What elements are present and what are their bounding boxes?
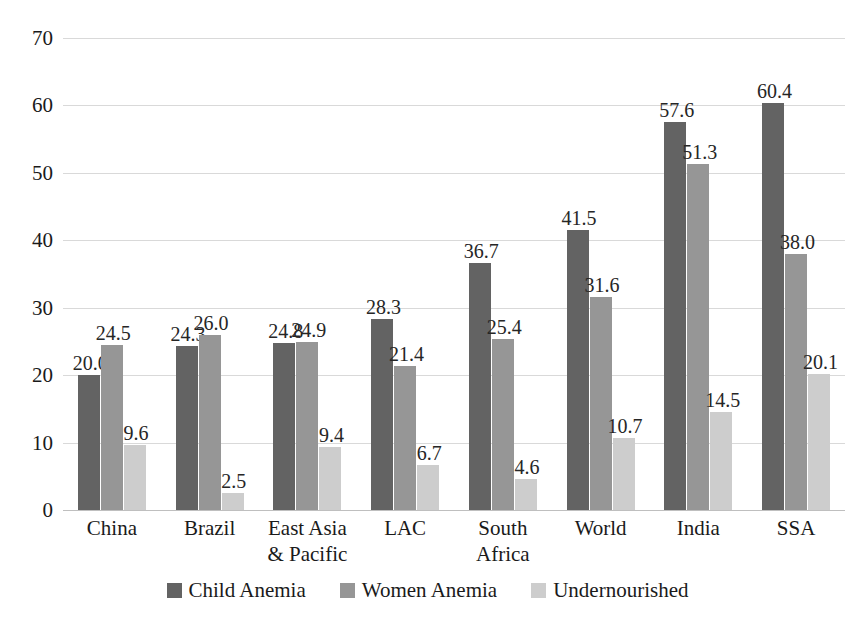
- bar-value-label: 60.4: [757, 81, 792, 102]
- y-axis-tick-label: 30: [32, 297, 53, 318]
- bar-value-label: 2.5: [221, 471, 246, 492]
- x-axis-category-label: World: [575, 516, 627, 542]
- chart-legend: Child AnemiaWomen AnemiaUndernourished: [0, 580, 855, 601]
- bar-value-label: 21.4: [389, 344, 424, 365]
- bar[interactable]: 20.0: [78, 375, 100, 510]
- bar[interactable]: 9.4: [319, 447, 341, 510]
- bar[interactable]: 25.4: [492, 339, 514, 510]
- y-axis-tick-label: 50: [32, 162, 53, 183]
- bar-value-label: 9.4: [319, 425, 344, 446]
- bar[interactable]: 31.6: [590, 297, 612, 510]
- bar-value-label: 10.7: [608, 416, 643, 437]
- legend-label: Child Anemia: [189, 580, 306, 601]
- bar-value-label: 14.5: [705, 390, 740, 411]
- legend-item[interactable]: Women Anemia: [340, 580, 497, 601]
- bar[interactable]: 24.5: [101, 345, 123, 510]
- bar-value-label: 6.7: [417, 443, 442, 464]
- x-axis-category-label: China: [87, 516, 137, 542]
- bar-group: 24.326.02.5: [176, 38, 244, 510]
- bar-group: 20.024.59.6: [78, 38, 146, 510]
- bar[interactable]: 60.4: [762, 103, 784, 510]
- x-axis-category-label: East Asia & Pacific: [267, 516, 347, 568]
- bar-value-label: 20.1: [803, 352, 838, 373]
- y-axis-tick-label: 20: [32, 365, 53, 386]
- bar-value-label: 31.6: [585, 275, 620, 296]
- plot-area: 20.024.59.624.326.02.524.824.99.428.321.…: [63, 38, 845, 510]
- bar[interactable]: 6.7: [417, 465, 439, 510]
- bar-value-label: 51.3: [682, 142, 717, 163]
- bar-value-label: 4.6: [514, 457, 539, 478]
- y-axis-tick-label: 10: [32, 432, 53, 453]
- x-axis-category-label: SSA: [777, 516, 816, 542]
- bar[interactable]: 24.8: [273, 343, 295, 510]
- bar[interactable]: 36.7: [469, 263, 491, 510]
- bar[interactable]: 24.9: [296, 342, 318, 510]
- y-axis-tick-label: 40: [32, 230, 53, 251]
- bar-value-label: 36.7: [464, 241, 499, 262]
- legend-item[interactable]: Undernourished: [531, 580, 688, 601]
- bar-group: 57.651.314.5: [664, 38, 732, 510]
- x-axis-category-label: LAC: [384, 516, 426, 542]
- bar-group: 41.531.610.7: [567, 38, 635, 510]
- bar[interactable]: 14.5: [710, 412, 732, 510]
- x-axis: ChinaBrazilEast Asia & PacificLACSouth A…: [63, 516, 845, 578]
- bar-value-label: 41.5: [562, 208, 597, 229]
- bar-chart: 706050403020100 20.024.59.624.326.02.524…: [0, 0, 855, 637]
- x-axis-category-label: South Africa: [476, 516, 530, 568]
- bar[interactable]: 24.3: [176, 346, 198, 510]
- bar-value-label: 38.0: [780, 232, 815, 253]
- bar[interactable]: 41.5: [567, 230, 589, 510]
- bar-value-label: 57.6: [659, 100, 694, 121]
- bar-value-label: 24.9: [291, 320, 326, 341]
- x-axis-category-label: India: [677, 516, 720, 542]
- bar-value-label: 26.0: [194, 313, 229, 334]
- bar-group: 36.725.44.6: [469, 38, 537, 510]
- legend-item[interactable]: Child Anemia: [167, 580, 306, 601]
- bar[interactable]: 21.4: [394, 366, 416, 510]
- legend-color-swatch: [531, 583, 546, 598]
- bar[interactable]: 26.0: [199, 335, 221, 510]
- bar[interactable]: 38.0: [785, 254, 807, 510]
- bar[interactable]: 20.1: [808, 374, 830, 510]
- bar[interactable]: 9.6: [124, 445, 146, 510]
- x-axis-category-label: Brazil: [184, 516, 235, 542]
- y-axis: 706050403020100: [0, 0, 58, 637]
- bar-group: 28.321.46.7: [371, 38, 439, 510]
- bar[interactable]: 4.6: [515, 479, 537, 510]
- axis-baseline: [63, 510, 845, 511]
- bar[interactable]: 51.3: [687, 164, 709, 510]
- legend-label: Women Anemia: [362, 580, 497, 601]
- bar[interactable]: 2.5: [222, 493, 244, 510]
- y-axis-tick-label: 70: [32, 28, 53, 49]
- bar-value-label: 28.3: [366, 297, 401, 318]
- bar-value-label: 9.6: [123, 423, 148, 444]
- bar-value-label: 24.5: [96, 323, 131, 344]
- legend-color-swatch: [340, 583, 355, 598]
- bar[interactable]: 57.6: [664, 122, 686, 510]
- legend-color-swatch: [167, 583, 182, 598]
- y-axis-tick-label: 0: [43, 500, 54, 521]
- legend-label: Undernourished: [553, 580, 688, 601]
- bar[interactable]: 10.7: [613, 438, 635, 510]
- bar-group: 60.438.020.1: [762, 38, 830, 510]
- y-axis-tick-label: 60: [32, 95, 53, 116]
- bar-value-label: 25.4: [487, 317, 522, 338]
- bar-group: 24.824.99.4: [273, 38, 341, 510]
